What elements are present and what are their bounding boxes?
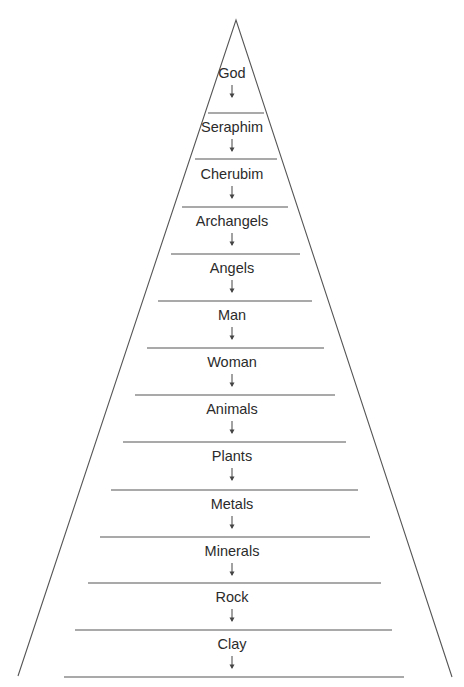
pyramid-level-cherubim: Cherubim: [0, 165, 464, 200]
pyramid-level-angels: Angels: [0, 259, 464, 294]
pyramid-level-minerals: Minerals: [0, 542, 464, 577]
down-arrow-icon: [228, 327, 236, 341]
down-arrow-icon: [228, 186, 236, 200]
level-label: Archangels: [0, 212, 464, 230]
pyramid-level-metals: Metals: [0, 495, 464, 530]
pyramid-level-animals: Animals: [0, 400, 464, 435]
pyramid-level-rock: Rock: [0, 588, 464, 623]
great-chain-of-being-pyramid: God Seraphim Cherubim Archangels Angels …: [0, 0, 464, 687]
down-arrow-icon: [228, 656, 236, 670]
down-arrow-icon: [228, 421, 236, 435]
level-label: Animals: [0, 400, 464, 418]
pyramid-level-seraphim: Seraphim: [0, 118, 464, 153]
level-label: Minerals: [0, 542, 464, 560]
level-label: God: [0, 64, 464, 82]
down-arrow-icon: [228, 233, 236, 247]
down-arrow-icon: [228, 609, 236, 623]
level-label: Rock: [0, 588, 464, 606]
level-label: Metals: [0, 495, 464, 513]
level-label: Angels: [0, 259, 464, 277]
pyramid-outline: [0, 0, 464, 687]
down-arrow-icon: [228, 468, 236, 482]
level-label: Plants: [0, 447, 464, 465]
down-arrow-icon: [228, 85, 236, 99]
level-label: Seraphim: [0, 118, 464, 136]
level-label: Woman: [0, 353, 464, 371]
down-arrow-icon: [228, 374, 236, 388]
down-arrow-icon: [228, 280, 236, 294]
pyramid-level-plants: Plants: [0, 447, 464, 482]
down-arrow-icon: [228, 516, 236, 530]
pyramid-level-archangels: Archangels: [0, 212, 464, 247]
level-label: Cherubim: [0, 165, 464, 183]
pyramid-level-god: God: [0, 64, 464, 99]
down-arrow-icon: [228, 139, 236, 153]
pyramid-level-man: Man: [0, 306, 464, 341]
level-label: Clay: [0, 635, 464, 653]
pyramid-level-woman: Woman: [0, 353, 464, 388]
level-label: Man: [0, 306, 464, 324]
down-arrow-icon: [228, 563, 236, 577]
pyramid-level-clay: Clay: [0, 635, 464, 670]
